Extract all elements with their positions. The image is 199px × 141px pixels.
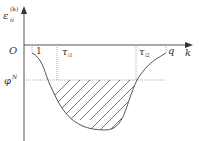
y-axis-label-sub: ii [10, 16, 14, 23]
diagram: ε (k) ii O 1 τ i1 τ i2 q k φ N [0, 0, 199, 141]
y-axis-label-sup: (k) [10, 5, 18, 12]
x-axis-label: k [185, 47, 191, 58]
y-axis-label: ε [3, 10, 8, 21]
tau2-sub: i2 [145, 52, 150, 58]
tau1-sub: i1 [68, 52, 73, 58]
threshold-sup: N [11, 73, 18, 80]
hatched-region [40, 70, 170, 130]
y-axis-arrow-icon [21, 6, 27, 14]
end-label: q [168, 45, 174, 56]
start-label: 1 [36, 46, 42, 56]
origin-label: O [9, 45, 17, 56]
threshold-label: φ [4, 75, 11, 86]
